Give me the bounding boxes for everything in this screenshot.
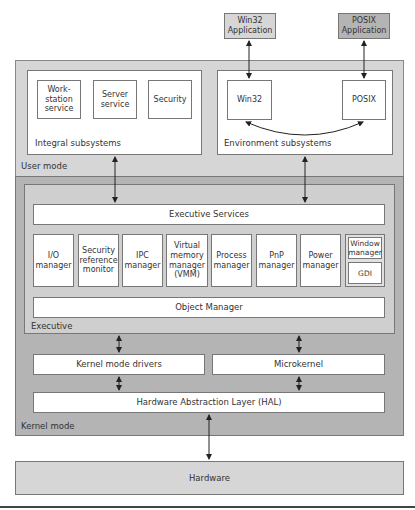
connector-arrows (0, 0, 415, 510)
